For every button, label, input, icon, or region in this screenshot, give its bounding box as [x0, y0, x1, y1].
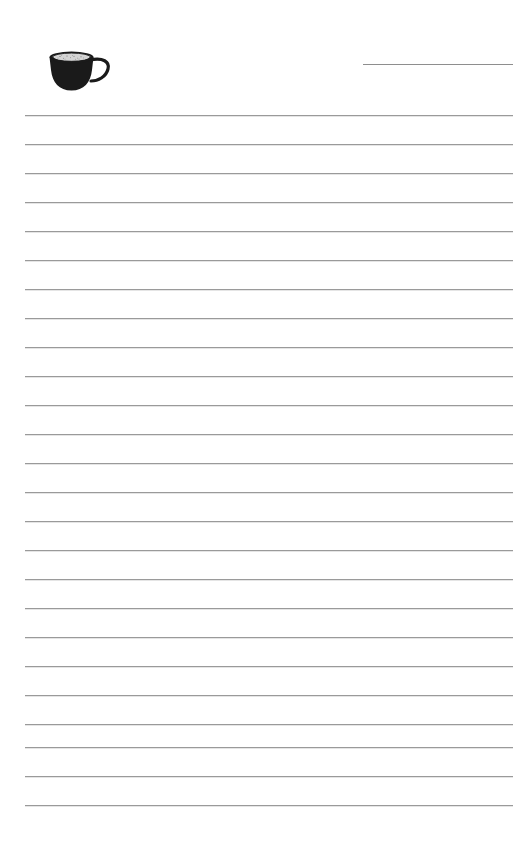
ruled-lines-area	[0, 0, 523, 851]
rule-line[interactable]	[25, 666, 513, 667]
rule-line[interactable]	[25, 260, 513, 261]
rule-line[interactable]	[25, 347, 513, 348]
rule-line[interactable]	[25, 434, 513, 435]
rule-line[interactable]	[25, 492, 513, 493]
rule-line[interactable]	[25, 173, 513, 174]
rule-line[interactable]	[25, 776, 513, 777]
rule-line[interactable]	[25, 144, 513, 145]
rule-line[interactable]	[25, 405, 513, 406]
rule-line[interactable]	[25, 318, 513, 319]
rule-line[interactable]	[25, 608, 513, 609]
rule-line[interactable]	[25, 289, 513, 290]
rule-line[interactable]	[25, 463, 513, 464]
rule-line[interactable]	[25, 805, 513, 806]
rule-line[interactable]	[25, 231, 513, 232]
rule-line[interactable]	[25, 724, 513, 725]
rule-line[interactable]	[25, 747, 513, 748]
rule-line[interactable]	[25, 550, 513, 551]
rule-line[interactable]	[25, 637, 513, 638]
rule-line[interactable]	[25, 521, 513, 522]
rule-line[interactable]	[25, 695, 513, 696]
rule-line[interactable]	[25, 202, 513, 203]
rule-line[interactable]	[25, 579, 513, 580]
rule-line[interactable]	[25, 376, 513, 377]
rule-line[interactable]	[25, 115, 513, 116]
notepad-page	[0, 0, 523, 851]
